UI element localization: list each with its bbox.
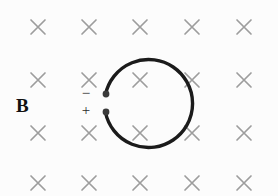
field-x-icon xyxy=(31,176,45,190)
field-x-icon xyxy=(237,176,251,190)
positive-terminal-dot xyxy=(103,109,110,116)
field-x-icon xyxy=(82,176,96,190)
field-x-icon xyxy=(133,126,147,140)
field-x-icon xyxy=(237,73,251,87)
field-x-icon xyxy=(185,176,199,190)
positive-terminal-label: + xyxy=(79,103,93,118)
negative-terminal-dot xyxy=(103,91,110,98)
field-x-icon xyxy=(133,20,147,34)
current-loop-arc xyxy=(106,60,193,148)
negative-terminal-label: − xyxy=(79,86,93,101)
field-x-icon xyxy=(31,73,45,87)
physics-figure: B − + xyxy=(0,0,278,196)
field-x-icon xyxy=(82,126,96,140)
magnetic-field-label: B xyxy=(16,96,29,115)
field-x-icon xyxy=(82,20,96,34)
field-into-page-marks xyxy=(31,20,251,190)
field-x-icon xyxy=(185,126,199,140)
field-x-icon xyxy=(237,126,251,140)
field-x-icon xyxy=(237,20,251,34)
field-x-icon xyxy=(31,20,45,34)
field-x-icon xyxy=(31,126,45,140)
field-x-icon xyxy=(133,176,147,190)
field-x-icon xyxy=(185,20,199,34)
magnetic-field-and-loop-canvas xyxy=(0,0,278,196)
field-x-icon xyxy=(133,73,147,87)
